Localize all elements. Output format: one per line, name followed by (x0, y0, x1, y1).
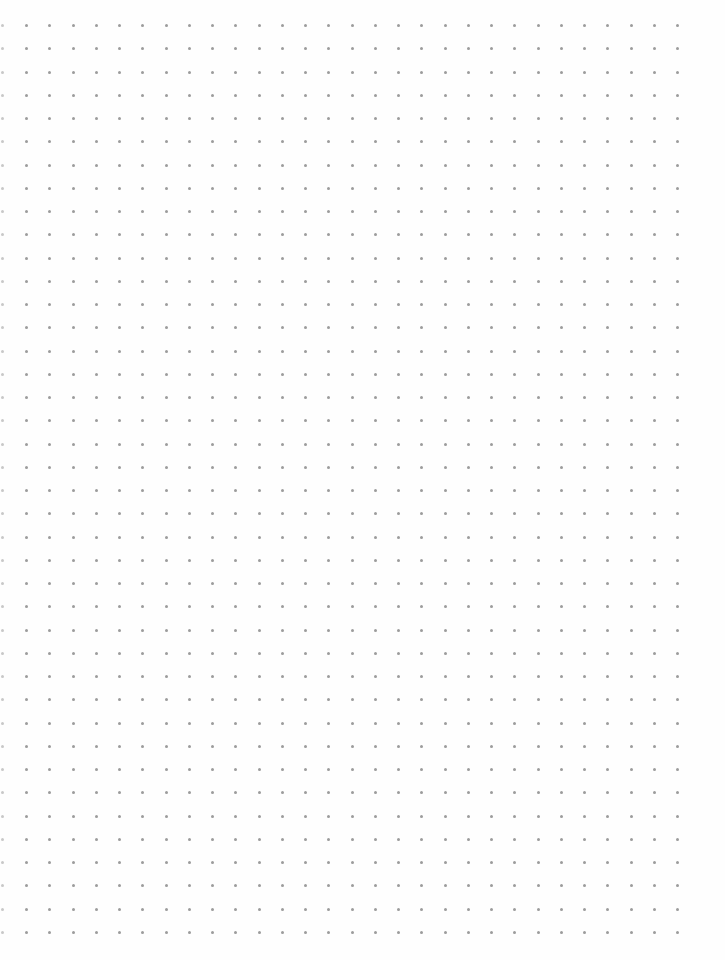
grid-dot (374, 582, 377, 585)
grid-dot (374, 466, 377, 469)
grid-dot (606, 350, 609, 353)
grid-dot (630, 326, 633, 329)
grid-dot (48, 559, 51, 562)
grid-dot (560, 233, 563, 236)
grid-dot (118, 698, 121, 701)
grid-dot (188, 257, 191, 260)
grid-dot (234, 257, 237, 260)
grid-dot (25, 140, 28, 143)
grid-dot (583, 629, 586, 632)
grid-dot (606, 396, 609, 399)
grid-dot (653, 745, 656, 748)
grid-dot (327, 187, 330, 190)
edge-dot (1, 117, 4, 120)
grid-dot (304, 419, 307, 422)
grid-dot (48, 698, 51, 701)
grid-dot (676, 210, 679, 213)
grid-dot (583, 164, 586, 167)
grid-dot (72, 419, 75, 422)
edge-dot (1, 908, 4, 911)
grid-dot (48, 71, 51, 74)
grid-dot (374, 884, 377, 887)
grid-dot (95, 675, 98, 678)
grid-dot (444, 861, 447, 864)
grid-dot (25, 466, 28, 469)
grid-dot (48, 605, 51, 608)
grid-dot (583, 71, 586, 74)
grid-dot (304, 791, 307, 794)
grid-dot (72, 303, 75, 306)
grid-dot (211, 350, 214, 353)
grid-dot (490, 71, 493, 74)
grid-dot (351, 838, 354, 841)
grid-dot (327, 536, 330, 539)
edge-dot (1, 280, 4, 283)
grid-dot (490, 326, 493, 329)
grid-dot (188, 605, 191, 608)
grid-dot (444, 489, 447, 492)
grid-dot (374, 94, 377, 97)
grid-dot (467, 303, 470, 306)
grid-dot (490, 536, 493, 539)
grid-dot (397, 768, 400, 771)
grid-dot (467, 466, 470, 469)
grid-dot (397, 908, 400, 911)
grid-dot (444, 47, 447, 50)
grid-dot (583, 210, 586, 213)
grid-dot (234, 233, 237, 236)
grid-dot (537, 257, 540, 260)
grid-dot (304, 303, 307, 306)
grid-dot (653, 815, 656, 818)
grid-dot (118, 582, 121, 585)
grid-dot (165, 71, 168, 74)
grid-dot (537, 908, 540, 911)
grid-dot (374, 210, 377, 213)
grid-dot (560, 257, 563, 260)
grid-dot (397, 652, 400, 655)
grid-dot (211, 419, 214, 422)
grid-dot (583, 768, 586, 771)
grid-dot (327, 47, 330, 50)
grid-dot (513, 24, 516, 27)
grid-dot (118, 303, 121, 306)
grid-dot (72, 791, 75, 794)
grid-dot (48, 303, 51, 306)
grid-dot (630, 838, 633, 841)
grid-dot (48, 187, 51, 190)
grid-dot (211, 559, 214, 562)
grid-dot (188, 931, 191, 934)
grid-dot (72, 164, 75, 167)
grid-dot (490, 303, 493, 306)
grid-dot (560, 512, 563, 515)
grid-dot (374, 698, 377, 701)
grid-dot (234, 815, 237, 818)
grid-dot (444, 140, 447, 143)
grid-dot (25, 884, 28, 887)
grid-dot (258, 698, 261, 701)
grid-dot (490, 140, 493, 143)
grid-dot (397, 350, 400, 353)
grid-dot (165, 396, 168, 399)
grid-dot (95, 280, 98, 283)
grid-dot (188, 652, 191, 655)
grid-dot (397, 698, 400, 701)
grid-dot (653, 908, 656, 911)
grid-dot (258, 536, 261, 539)
grid-dot (72, 559, 75, 562)
grid-dot (653, 536, 656, 539)
grid-dot (583, 815, 586, 818)
grid-dot (630, 884, 633, 887)
grid-dot (420, 117, 423, 120)
grid-dot (606, 489, 609, 492)
grid-dot (141, 419, 144, 422)
grid-dot (211, 94, 214, 97)
grid-dot (420, 47, 423, 50)
grid-dot (304, 187, 307, 190)
grid-dot (467, 931, 470, 934)
grid-dot (211, 605, 214, 608)
grid-dot (258, 582, 261, 585)
grid-dot (188, 745, 191, 748)
grid-dot (25, 698, 28, 701)
grid-dot (258, 629, 261, 632)
grid-dot (211, 815, 214, 818)
